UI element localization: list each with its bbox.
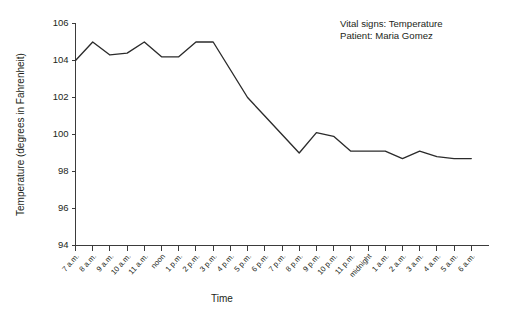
x-tick-label: 7 a.m. <box>60 252 81 274</box>
x-tick-label: 5 a.m. <box>439 252 460 274</box>
x-tick-label: 3 a.m. <box>404 252 425 274</box>
x-tick-label: 3 p.m. <box>198 252 219 274</box>
y-tick-label: 104 <box>53 54 69 65</box>
x-tick-label: 2 a.m. <box>387 252 408 274</box>
x-tick-label: 6 p.m. <box>249 252 270 274</box>
x-tick-label: 2 p.m. <box>181 252 202 274</box>
annotation-line: Vital signs: Temperature <box>340 18 443 29</box>
x-tick-label: 1 a.m. <box>370 252 391 274</box>
x-tick-label: 8 a.m. <box>77 252 98 274</box>
y-tick-label: 94 <box>58 239 69 250</box>
chart-canvas: 949698100102104106 7 a.m.8 a.m.9 a.m.10 … <box>0 0 516 317</box>
x-tick-label: 6 a.m. <box>456 252 477 274</box>
y-tick-label: 100 <box>53 128 69 139</box>
temperature-series <box>76 42 472 159</box>
y-tick-label: 98 <box>58 165 69 176</box>
x-tick-label: 8 p.m. <box>284 252 305 274</box>
x-tick-label: 5 p.m. <box>232 252 253 274</box>
chart-annotation: Vital signs: TemperaturePatient: Maria G… <box>340 18 443 41</box>
y-tick-label: 106 <box>53 17 69 28</box>
y-axis-title: Temperature (degrees in Fahrenheit) <box>15 53 26 216</box>
x-tick-label: 7 p.m. <box>267 252 288 274</box>
x-axis: 7 a.m.8 a.m.9 a.m.10 a.m.11 a.m.noon1 p.… <box>60 246 488 280</box>
x-tick-label: 4 p.m. <box>215 252 236 274</box>
y-tick-label: 102 <box>53 91 69 102</box>
temperature-line <box>76 42 472 159</box>
x-tick-label: 1 p.m. <box>163 252 184 274</box>
x-tick-label: 4 a.m. <box>422 252 443 274</box>
y-tick-label: 96 <box>58 202 69 213</box>
annotation-line: Patient: Maria Gomez <box>340 30 433 41</box>
x-tick-label: 11 a.m. <box>127 252 150 276</box>
temperature-line-chart: 949698100102104106 7 a.m.8 a.m.9 a.m.10 … <box>0 0 516 317</box>
y-axis: 949698100102104106 <box>53 17 76 250</box>
x-axis-title: Time <box>211 293 233 304</box>
